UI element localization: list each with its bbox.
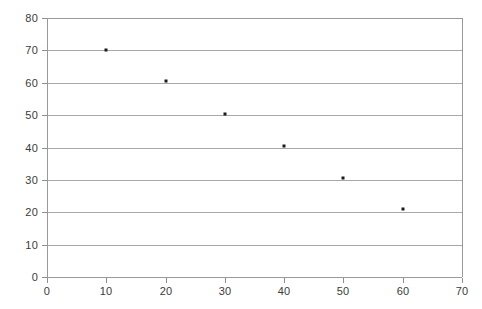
gridline [47,212,462,213]
x-tick-mark [47,278,48,283]
y-tick-mark [42,50,47,51]
y-tick-label: 50 [25,110,38,121]
data-point [223,112,226,115]
y-tick-mark [42,212,47,213]
y-tick-label: 80 [25,13,38,24]
x-tick-label: 20 [160,286,173,297]
y-tick-label: 70 [25,45,38,56]
gridline [47,148,462,149]
x-tick-mark [462,278,463,283]
plot-top-border [47,18,462,19]
gridline [47,50,462,51]
x-tick-mark [284,278,285,283]
x-tick-mark [343,278,344,283]
x-tick-mark [166,278,167,283]
gridline [47,180,462,181]
y-tick-mark [42,83,47,84]
y-tick-mark [42,148,47,149]
y-tick-label: 20 [25,207,38,218]
x-tick-label: 30 [219,286,232,297]
x-tick-mark [403,278,404,283]
x-tick-label: 10 [100,286,113,297]
y-tick-label: 40 [25,143,38,154]
y-tick-mark [42,18,47,19]
x-tick-label: 0 [44,286,50,297]
y-tick-label: 0 [32,272,38,283]
x-tick-mark [225,278,226,283]
y-tick-label: 10 [25,240,38,251]
x-tick-label: 70 [456,286,469,297]
y-tick-mark [42,115,47,116]
data-point [342,177,345,180]
y-tick-mark [42,245,47,246]
y-tick-label: 30 [25,175,38,186]
gridline [47,115,462,116]
x-tick-label: 40 [278,286,291,297]
scatter-chart: 01020304050607080 010203040506070 [0,0,482,309]
y-tick-mark [42,180,47,181]
x-axis-line [47,277,462,278]
x-tick-label: 60 [397,286,410,297]
data-point [283,144,286,147]
y-axis-line [47,18,48,277]
gridline [47,83,462,84]
x-tick-label: 50 [337,286,350,297]
plot-right-border [462,18,463,277]
data-point [401,208,404,211]
x-tick-mark [106,278,107,283]
gridline [47,245,462,246]
data-point [105,49,108,52]
data-point [164,80,167,83]
y-tick-label: 60 [25,78,38,89]
